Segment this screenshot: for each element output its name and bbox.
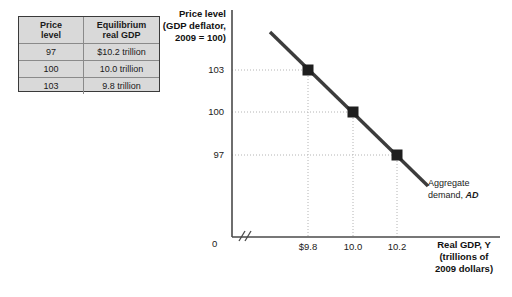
x-tick-label-9-8: $9.8 [288,241,328,252]
data-point-9-8-103 [303,65,314,76]
y-axis-title: Price level (GDP deflator, 2009 = 100) [150,8,226,44]
x-tick-label-10-0: 10.0 [333,241,373,252]
axis-break-icon [239,231,251,241]
y-axis-title-line1: Price level [150,8,226,20]
x-axis-title-line3: 2009 dollars) [418,263,510,275]
aggregate-demand-label: Aggregate demand, AD [428,178,504,201]
aggregate-demand-label-line2: demand, AD [428,190,504,202]
x-tick-label-10-2: 10.2 [377,241,417,252]
x-axis-title-line2: (trillions of [418,251,510,263]
y-tick-label-100: 100 [190,106,224,117]
data-point-10-0-100 [348,107,359,118]
y-tick-label-97: 97 [190,149,224,160]
x-axis-title-line1: Real GDP, Y [418,239,510,251]
data-point-10-2-97 [392,150,403,161]
origin-label: 0 [212,238,217,249]
aggregate-demand-label-line1: Aggregate [428,178,504,190]
x-axis-title: Real GDP, Y (trillions of 2009 dollars) [418,239,510,275]
ad-label-prefix: demand, [428,190,466,200]
ad-label-italic: AD [466,190,479,200]
y-axis-title-line2: (GDP deflator, [150,20,226,32]
aggregate-demand-chart: Price level (GDP deflator, 2009 = 100) R… [0,0,512,297]
y-axis-title-line3: 2009 = 100) [150,32,226,44]
gridlines [232,70,397,237]
y-tick-label-103: 103 [190,64,224,75]
